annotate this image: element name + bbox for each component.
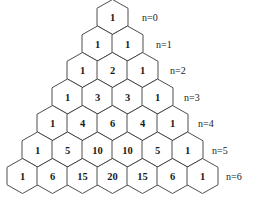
hex-value: 1 xyxy=(185,145,190,156)
row-label-n5: n=5 xyxy=(212,145,228,156)
hex-value: 1 xyxy=(140,65,145,76)
hex-value: 3 xyxy=(95,92,100,103)
hex-value: 6 xyxy=(170,171,175,182)
hex-value: 1 xyxy=(20,171,25,182)
pascals-triangle-figure: 1n=011n=1121n=21331n=314641n=415101051n=… xyxy=(0,0,263,203)
row-label-n0: n=0 xyxy=(142,12,158,23)
triangle-row: 11n=1 xyxy=(82,26,172,61)
hex-value: 4 xyxy=(80,118,86,129)
hex-value: 10 xyxy=(92,145,103,156)
hex-value: 1 xyxy=(155,92,160,103)
hex-value: 1 xyxy=(110,12,115,23)
hex-value: 3 xyxy=(125,92,130,103)
pascals-triangle-canvas: 1n=011n=1121n=21331n=314641n=415101051n=… xyxy=(0,0,263,203)
hex-value: 5 xyxy=(65,145,70,156)
row-label-n2: n=2 xyxy=(170,65,186,76)
row-label-n4: n=4 xyxy=(198,118,214,129)
row-label-n1: n=1 xyxy=(156,39,172,50)
hex-value: 1 xyxy=(35,145,40,156)
row-label-n3: n=3 xyxy=(184,92,200,103)
hex-value: 4 xyxy=(140,118,146,129)
hex-value: 1 xyxy=(65,92,70,103)
hex-value: 10 xyxy=(122,145,133,156)
hex-value: 2 xyxy=(110,65,115,76)
hex-value: 6 xyxy=(110,118,115,129)
hex-value: 1 xyxy=(125,39,130,50)
hex-value: 15 xyxy=(77,171,88,182)
hex-value: 1 xyxy=(80,65,85,76)
row-label-n6: n=6 xyxy=(226,171,242,182)
hex-value: 1 xyxy=(50,118,55,129)
hex-value: 15 xyxy=(137,171,148,182)
hex-value: 6 xyxy=(50,171,55,182)
hex-value: 20 xyxy=(107,171,118,182)
hex-value: 1 xyxy=(170,118,175,129)
hex-value: 1 xyxy=(95,39,100,50)
hex-value: 5 xyxy=(155,145,160,156)
hex-value: 1 xyxy=(200,171,205,182)
